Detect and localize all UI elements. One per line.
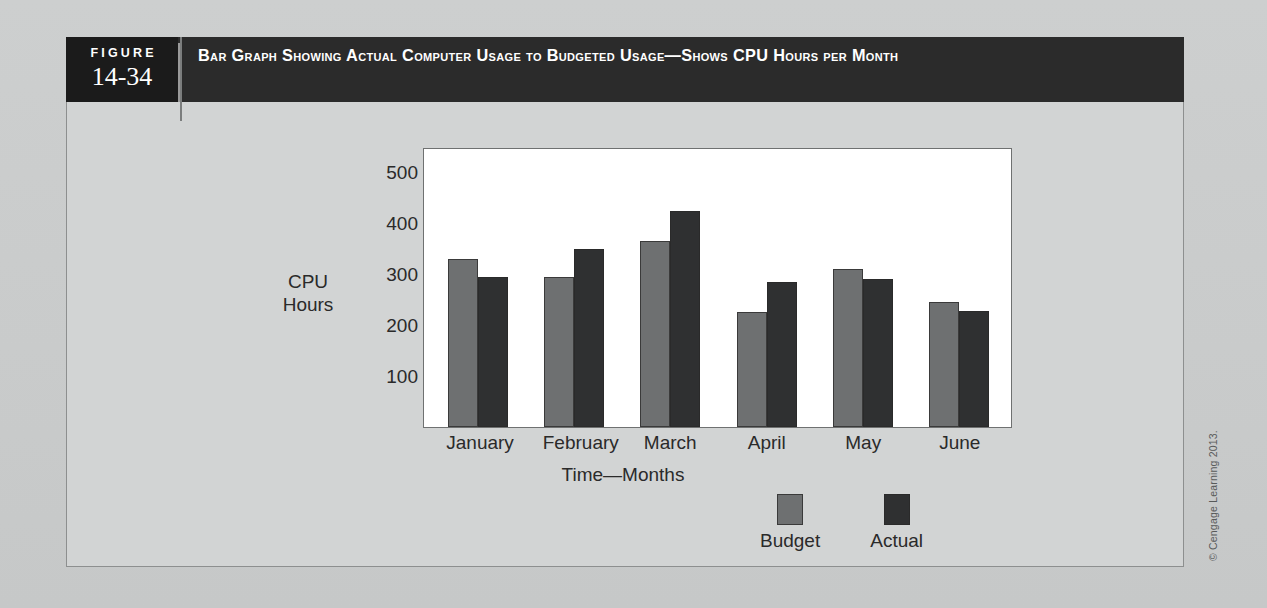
x-axis-tick-label: March	[639, 432, 701, 458]
bar-group	[737, 282, 797, 427]
bar-actual-january	[478, 277, 508, 427]
chart-area: CPU Hours 500400300200100 JanuaryFebruar…	[66, 102, 1184, 567]
bar-group	[448, 259, 508, 427]
bar-actual-february	[574, 249, 604, 427]
bar-budget-april	[737, 312, 767, 427]
y-axis-tick-label: 500	[386, 162, 418, 184]
y-axis-tick-label: 100	[386, 366, 418, 388]
legend-item-actual: Actual	[870, 494, 923, 552]
x-axis-tick-labels: JanuaryFebruaryMarchAprilMayJune	[423, 432, 1012, 458]
legend-item-budget: Budget	[760, 494, 820, 552]
bar-group	[640, 211, 700, 427]
y-axis-tick-label: 400	[386, 213, 418, 235]
legend-label-budget: Budget	[760, 530, 820, 552]
chart-legend: BudgetActual	[760, 494, 923, 552]
bar-actual-may	[863, 279, 893, 427]
bar-actual-june	[959, 311, 989, 427]
plot-area	[423, 148, 1012, 428]
y-axis-title-line-2: Hours	[262, 293, 354, 316]
y-axis-title: CPU Hours	[262, 270, 354, 316]
y-axis-tick-label: 200	[386, 315, 418, 337]
x-axis-tick-label: February	[543, 432, 605, 458]
bar-budget-june	[929, 302, 959, 427]
figure-title: Bar Graph Showing Actual Computer Usage …	[180, 37, 1184, 102]
bar-budget-may	[833, 269, 863, 427]
bar-budget-january	[448, 259, 478, 427]
x-axis-tick-label: May	[832, 432, 894, 458]
figure-number-value: 14-34	[92, 62, 153, 92]
y-axis-tick-label: 300	[386, 264, 418, 286]
legend-label-actual: Actual	[870, 530, 923, 552]
y-axis-ticks: 500400300200100	[362, 148, 418, 428]
bar-actual-april	[767, 282, 797, 427]
bar-group	[544, 249, 604, 427]
y-axis-title-line-1: CPU	[262, 270, 354, 293]
bar-groups	[424, 149, 1011, 427]
x-axis-tick-label: April	[736, 432, 798, 458]
figure-header: FIGURE 14-34 Bar Graph Showing Actual Co…	[66, 37, 1184, 102]
page-background: FIGURE 14-34 Bar Graph Showing Actual Co…	[0, 0, 1267, 608]
copyright-credit: © Cengage Learning 2013.	[1207, 430, 1219, 561]
bar-budget-february	[544, 277, 574, 427]
figure-number-block: FIGURE 14-34	[66, 37, 178, 102]
bar-budget-march	[640, 241, 670, 427]
bar-group	[929, 302, 989, 427]
bar-group	[833, 269, 893, 427]
figure-number-label: FIGURE	[87, 47, 157, 61]
x-axis-tick-label: January	[446, 432, 508, 458]
x-axis-title: Time—Months	[423, 464, 823, 486]
legend-swatch-budget	[777, 494, 803, 525]
x-axis-tick-label: June	[929, 432, 991, 458]
legend-swatch-actual	[884, 494, 910, 525]
bar-actual-march	[670, 211, 700, 427]
